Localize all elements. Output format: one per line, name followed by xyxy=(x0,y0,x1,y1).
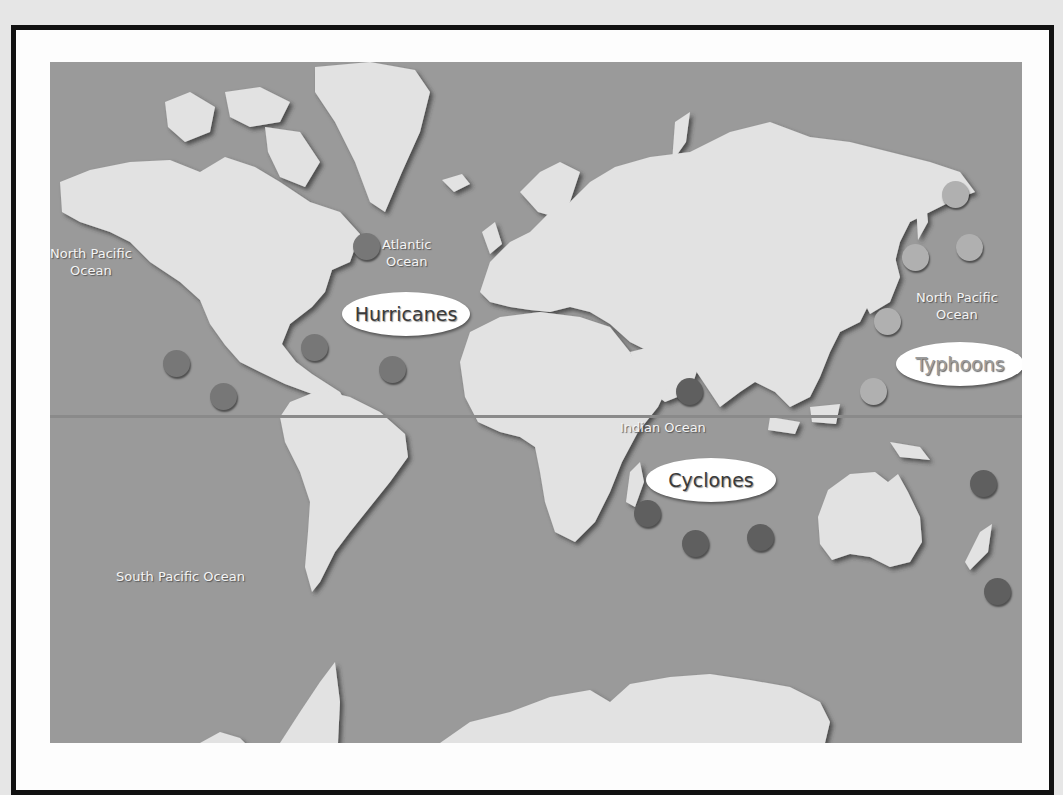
hurricane-marker xyxy=(353,233,380,260)
greenland xyxy=(315,62,430,212)
world-map: North Pacific Ocean Atlantic Ocean North… xyxy=(50,62,1022,743)
label-south-pacific-ocean: South Pacific Ocean xyxy=(116,568,245,585)
cyclone-marker xyxy=(970,470,997,497)
cyclones-label: Cyclones xyxy=(646,458,776,502)
hurricanes-text: Hurricanes xyxy=(355,303,458,325)
typhoon-marker xyxy=(874,308,901,335)
hurricanes-label: Hurricanes xyxy=(342,292,470,336)
antarctica xyxy=(440,674,830,743)
label-indian-ocean: Indian Ocean xyxy=(620,419,706,436)
cyclone-marker xyxy=(634,500,661,527)
hurricane-marker xyxy=(210,383,237,410)
equator-line xyxy=(50,415,1022,418)
hurricane-marker xyxy=(301,334,328,361)
label-north-pacific-west: North Pacific Ocean xyxy=(50,245,132,279)
australia xyxy=(818,472,922,567)
label-atlantic-ocean: Atlantic Ocean xyxy=(382,236,431,270)
typhoons-text: Typhoons xyxy=(915,353,1004,375)
cyclone-marker xyxy=(682,530,709,557)
hurricane-marker xyxy=(163,350,190,377)
label-north-pacific-east: North Pacific Ocean xyxy=(916,289,998,323)
typhoon-marker xyxy=(902,244,929,271)
typhoon-marker xyxy=(942,181,969,208)
cyclone-marker xyxy=(984,578,1011,605)
south-america xyxy=(280,390,408,592)
cyclones-text: Cyclones xyxy=(668,469,754,491)
typhoon-marker xyxy=(860,378,887,405)
north-america xyxy=(60,157,360,410)
typhoon-marker xyxy=(956,234,983,261)
hurricane-marker xyxy=(379,356,406,383)
cyclone-marker xyxy=(747,524,774,551)
typhoons-label: Typhoons xyxy=(896,342,1022,386)
cyclone-marker xyxy=(676,378,703,405)
